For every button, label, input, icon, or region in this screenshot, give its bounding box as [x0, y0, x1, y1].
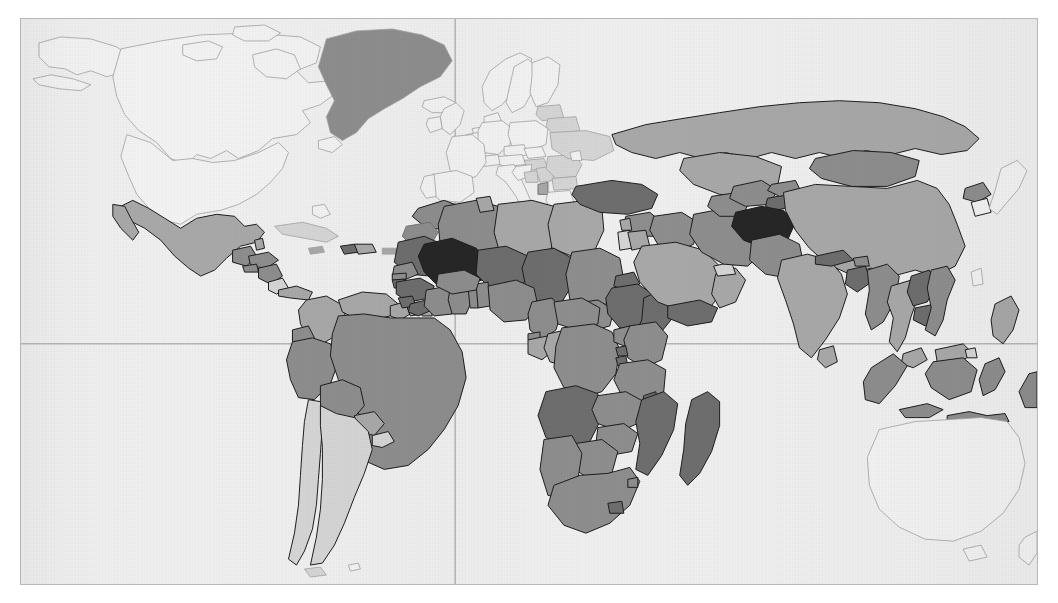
- figure-page: [0, 0, 1058, 603]
- region-albania: [538, 182, 548, 194]
- world-choropleth-svg: [21, 19, 1037, 584]
- region-bulgaria: [552, 176, 578, 190]
- region-rwanda: [616, 346, 628, 356]
- region-dominican-republic: [354, 244, 376, 254]
- region-bhutan: [853, 256, 869, 266]
- region-victoria-island: [183, 41, 223, 61]
- region-bosnia: [524, 170, 538, 182]
- region-puerto-rico: [382, 248, 396, 254]
- region-eswatini: [628, 477, 638, 487]
- region-el-salvador: [243, 264, 259, 272]
- region-moldova: [570, 151, 582, 161]
- region-lesotho: [608, 501, 624, 513]
- region-slovakia: [524, 147, 546, 159]
- map-canvas: [21, 19, 1037, 584]
- region-lebanon: [620, 218, 632, 230]
- region-belize: [255, 238, 265, 250]
- region-brunei: [965, 348, 977, 358]
- world-map-plate: [20, 18, 1038, 585]
